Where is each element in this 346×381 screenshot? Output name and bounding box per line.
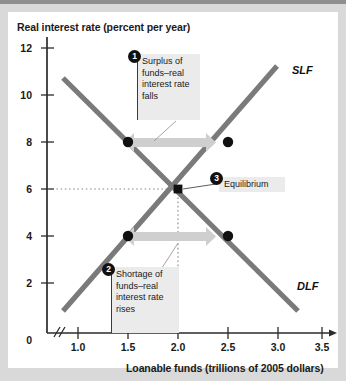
callout-shortage-line-2: funds–real	[116, 281, 175, 293]
y-tick-label-4: 4	[26, 230, 32, 242]
marker-point-2-5-4	[223, 231, 233, 241]
callout-shortage-line-4: rises	[116, 304, 175, 316]
callout-badge-1: 1	[128, 50, 141, 63]
marker-point-1-5-8	[123, 137, 133, 147]
marker-point-1-5-4	[123, 231, 133, 241]
x-tick-label-1-5: 1.5	[121, 341, 136, 353]
x-tick-label-1-0: 1.0	[71, 341, 86, 353]
x-tick-label-3-5: 3.5	[315, 341, 330, 353]
y-tick-label-0: 0	[26, 334, 32, 346]
callout-surplus-line-4: falls	[142, 91, 196, 103]
callout-surplus-line-3: interest rate	[142, 79, 196, 91]
y-tick-label-2: 2	[26, 277, 32, 289]
x-tick-label-2-5: 2.5	[221, 341, 236, 353]
callout-badge-3: 3	[210, 172, 223, 185]
callout-equilibrium: Equilibrium	[219, 177, 285, 192]
x-axis-arrowhead	[329, 329, 337, 336]
y-tick-label-8: 8	[26, 136, 32, 148]
y-tick-label-6: 6	[26, 183, 32, 195]
callout-shortage: Shortage of funds–real interest rate ris…	[111, 267, 179, 333]
marker-equilibrium-point	[174, 185, 183, 194]
callout-3-leader-line	[183, 184, 216, 189]
supply-curve-label: SLF	[292, 64, 313, 76]
axis-break-mark-2	[59, 327, 65, 337]
marker-point-2-5-8	[223, 137, 233, 147]
axis-break-mark	[54, 327, 60, 337]
y-tick-label-10: 10	[20, 89, 32, 101]
shortage-double-arrow	[124, 227, 216, 246]
callout-surplus: Surplus of funds–real interest rate fall…	[137, 54, 200, 120]
callout-surplus-line-1: Surplus of	[142, 56, 196, 68]
x-tick-label-2-0: 2.0	[171, 341, 186, 353]
callout-shortage-line-1: Shortage of	[116, 269, 175, 281]
demand-curve-label: DLF	[297, 280, 319, 292]
y-tick-label-12: 12	[20, 42, 32, 54]
callout-equilibrium-label: Equilibrium	[224, 178, 280, 190]
callout-badge-2: 2	[102, 263, 115, 276]
callout-shortage-line-3: interest rate	[116, 292, 175, 304]
figure-container: Real interest rate (percent per year) Lo…	[0, 0, 346, 381]
x-tick-label-3-0: 3.0	[271, 341, 286, 353]
callout-surplus-line-2: funds–real	[142, 68, 196, 80]
